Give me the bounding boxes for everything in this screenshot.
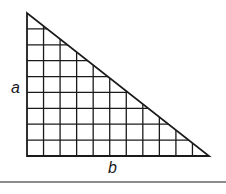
right-triangle-diagram: a b	[0, 0, 226, 194]
leg-a-label: a	[11, 80, 20, 96]
triangle-outline	[27, 13, 209, 156]
leg-b-label: b	[108, 160, 117, 176]
